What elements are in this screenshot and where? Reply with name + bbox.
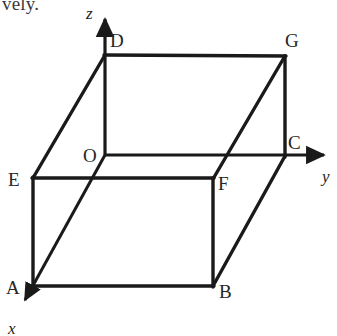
vertex-label-C: C bbox=[288, 133, 301, 152]
z-axis-label: z bbox=[86, 5, 93, 22]
x-axis-label: x bbox=[8, 320, 16, 336]
axis-lines bbox=[25, 19, 324, 300]
y-axis-label: y bbox=[322, 168, 330, 185]
vertex-label-B: B bbox=[219, 282, 232, 301]
vertex-label-F: F bbox=[218, 174, 229, 193]
figure-page: vely. O bbox=[0, 0, 337, 336]
edge-G-F bbox=[213, 56, 285, 179]
vertex-label-G: G bbox=[285, 31, 299, 50]
box-thick-edges bbox=[32, 55, 286, 287]
vertex-label-O: O bbox=[83, 146, 97, 165]
vertex-label-E: E bbox=[8, 170, 20, 189]
vertex-label-A: A bbox=[6, 278, 20, 297]
edge-D-G bbox=[104, 55, 286, 56]
vertex-label-D: D bbox=[110, 31, 124, 50]
